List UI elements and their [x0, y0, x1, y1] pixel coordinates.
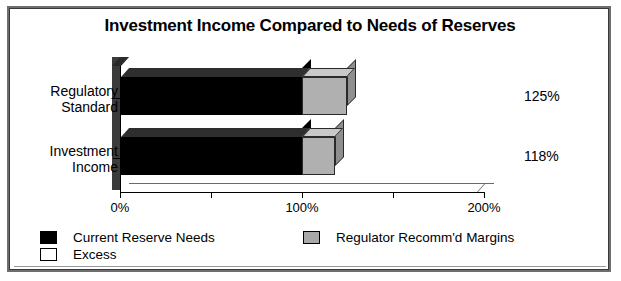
axis-tick-label-0: 0% — [111, 200, 130, 215]
bar-segment-regulator-recommd-margins[interactable] — [302, 68, 347, 106]
bar-face-top — [121, 68, 310, 77]
chart-figure: Investment Income Compared to Needs of R… — [0, 0, 621, 281]
axis-tick-0 — [120, 192, 121, 198]
bar-face-side — [347, 59, 356, 106]
bar-face-front — [121, 137, 302, 175]
category-label-investment-income: Investment Income — [50, 143, 118, 175]
bar-segment-current-reserve-needs[interactable] — [121, 128, 302, 166]
axis-tick-100 — [302, 192, 303, 198]
bar-face-front — [302, 137, 335, 175]
category-label-line-1: Investment — [50, 143, 118, 159]
legend-swatch-icon — [40, 231, 57, 244]
legend-label: Current Reserve Needs — [73, 230, 215, 245]
legend-column-right: Regulator Recomm'd Margins — [303, 229, 514, 246]
bar-value-label-regulatory-standard: 125% — [524, 88, 560, 104]
legend-item-excess[interactable]: Excess — [40, 246, 215, 263]
legend-label: Excess — [73, 247, 117, 262]
axis-tick-50 — [211, 192, 212, 198]
bar-face-front — [121, 77, 302, 115]
legend-swatch-icon — [303, 231, 320, 244]
value-axis-back-line — [129, 183, 494, 184]
legend-label: Regulator Recomm'd Margins — [336, 230, 514, 245]
axis-tick-label-100: 100% — [285, 200, 318, 215]
bar-face-top — [121, 128, 310, 137]
bar-value-label-investment-income: 118% — [524, 148, 559, 164]
bar-face-top — [302, 68, 355, 77]
legend-item-current-reserve-needs[interactable]: Current Reserve Needs — [40, 229, 215, 246]
legend-item-regulator-recommd-margins[interactable]: Regulator Recomm'd Margins — [303, 229, 514, 246]
bar-face-front — [302, 77, 347, 115]
bar-segment-regulator-recommd-margins[interactable] — [302, 128, 335, 166]
category-label-line-2: Income — [50, 159, 118, 175]
axis-tick-150 — [393, 192, 394, 198]
axis-tick-label-200: 200% — [467, 200, 500, 215]
category-label-regulatory-standard: Regulatory Standard — [50, 83, 118, 115]
category-label-line-1: Regulatory — [50, 83, 118, 99]
bar-segment-current-reserve-needs[interactable] — [121, 68, 302, 106]
axis-tick-200 — [484, 192, 485, 198]
legend-swatch-icon — [40, 248, 57, 261]
legend-column-left: Current Reserve Needs Excess — [40, 229, 215, 263]
bar-face-side — [335, 119, 344, 166]
category-label-line-2: Standard — [50, 99, 118, 115]
legend-separator — [14, 266, 606, 267]
